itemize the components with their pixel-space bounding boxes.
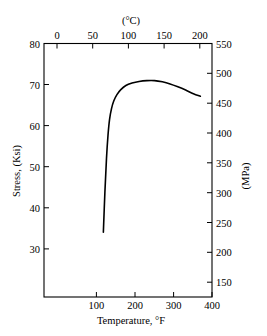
top-tick-label-150: 150 [156, 30, 172, 41]
top-tick-label-100: 100 [121, 30, 137, 41]
right-tick-label-450: 450 [216, 98, 232, 109]
chart-container: 80 70 60 50 40 30 Stress, (Ksi) 550 500 … [0, 0, 267, 336]
left-tick-label-60: 60 [30, 121, 41, 132]
bottom-tick-label-300: 300 [166, 300, 182, 311]
right-tick-label-550: 550 [216, 39, 232, 50]
right-tick-label-500: 500 [216, 68, 232, 79]
right-tick-label-400: 400 [216, 128, 232, 139]
left-tick-label-80: 80 [30, 39, 41, 50]
stress-temperature-plot: 80 70 60 50 40 30 Stress, (Ksi) 550 500 … [0, 0, 267, 336]
right-tick-label-200: 200 [216, 247, 232, 258]
right-tick-label-350: 350 [216, 158, 232, 169]
left-axis-title: Stress, (Ksi) [11, 145, 23, 197]
top-tick-label-200: 200 [192, 30, 208, 41]
left-tick-label-40: 40 [30, 203, 41, 214]
bottom-tick-label-400: 400 [204, 300, 220, 311]
right-tick-label-150: 150 [216, 277, 232, 288]
left-tick-label-30: 30 [30, 244, 41, 255]
bottom-tick-label-100: 100 [89, 300, 105, 311]
right-axis-title: (MPa) [240, 162, 252, 189]
right-tick-label-300: 300 [216, 188, 232, 199]
right-axis: 550 500 450 400 350 300 250 200 150 (MPa… [207, 39, 252, 289]
bottom-tick-label-200: 200 [127, 300, 143, 311]
stress-curve [103, 80, 200, 232]
top-axis-title: (°C) [122, 15, 141, 27]
top-tick-label-50: 50 [87, 30, 98, 41]
left-axis: 80 70 60 50 40 30 Stress, (Ksi) [11, 39, 49, 255]
right-tick-label-250: 250 [216, 218, 232, 229]
left-tick-label-70: 70 [30, 80, 41, 91]
bottom-axis-title: Temperature, °F [97, 315, 165, 326]
top-tick-label-0: 0 [54, 30, 59, 41]
plot-frame [44, 44, 212, 298]
left-tick-label-50: 50 [30, 162, 41, 173]
